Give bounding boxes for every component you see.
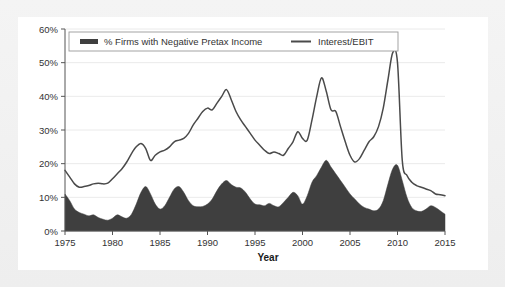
y-tick-label: 50% (39, 57, 59, 68)
x-axis-title: Year (257, 252, 278, 263)
area-series-negative-pretax-income (65, 160, 445, 231)
x-tick-label: 1985 (149, 237, 170, 248)
y-tick-label: 0% (44, 226, 58, 237)
chart-container: 0%10%20%30%40%50%60% 1975198019851990199… (18, 17, 488, 270)
area-path (65, 160, 445, 231)
y-tick-label: 20% (39, 158, 59, 169)
line-series-interest-ebit (65, 50, 445, 196)
chart-card: 0%10%20%30%40%50%60% 1975198019851990199… (18, 17, 488, 270)
legend-label-negative-pretax-income[interactable]: % Firms with Negative Pretax Income (104, 36, 262, 47)
line-path (65, 50, 445, 196)
x-tick-label: 2015 (434, 237, 455, 248)
gridlines (65, 29, 445, 197)
y-tick-label: 60% (39, 24, 59, 35)
y-tick-label: 10% (39, 192, 59, 203)
x-tick-label: 1975 (54, 237, 75, 248)
x-tick-label: 2005 (339, 237, 360, 248)
legend-label-interest-ebit[interactable]: Interest/EBIT (318, 36, 374, 47)
legend: % Firms with Negative Pretax IncomeInter… (69, 32, 398, 51)
x-tick-label: 1995 (244, 237, 265, 248)
y-tick-label: 40% (39, 91, 59, 102)
x-tick-label: 2000 (292, 237, 313, 248)
x-tick-label: 1990 (197, 237, 218, 248)
x-axis-tick-labels: 197519801985199019952000200520102015 (54, 237, 455, 248)
y-tick-label: 30% (39, 125, 59, 136)
y-axis-tick-labels: 0%10%20%30%40%50%60% (39, 24, 59, 237)
x-tick-label: 2010 (387, 237, 408, 248)
x-tick-label: 1980 (102, 237, 123, 248)
firms-negative-pretax-income-chart: 0%10%20%30%40%50%60% 1975198019851990199… (18, 17, 488, 270)
page-root: 0%10%20%30%40%50%60% 1975198019851990199… (0, 0, 505, 287)
legend-swatch-negative-pretax-income[interactable] (80, 39, 98, 44)
